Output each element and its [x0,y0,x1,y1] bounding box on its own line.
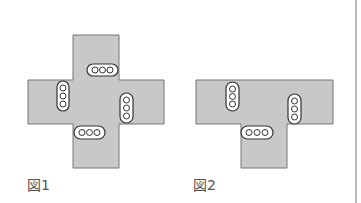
pill-horizontal-top [87,64,118,76]
figure-1-cross [28,35,164,168]
pill-vertical-left [226,82,239,111]
t-shape [196,80,333,168]
figure-2-caption: 図2 [193,178,216,192]
cross-shape [28,35,164,168]
pill-vertical-left [57,81,69,111]
figure-1-caption: 図1 [27,178,50,192]
pill-horizontal-bottom [241,126,273,139]
diagram-canvas [0,0,361,203]
figure-2-t-shape [196,80,333,168]
pill-vertical-right [288,94,301,124]
pill-horizontal-bottom [74,126,105,139]
pill-vertical-right [120,93,133,123]
